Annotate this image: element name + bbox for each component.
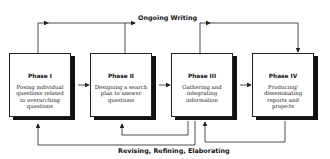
phase-2-description: Designing a search plan to answer questi… <box>94 84 148 103</box>
revising-loop <box>38 121 285 145</box>
phase-3-box: Phase III Gathering and integrating info… <box>171 53 233 117</box>
phase-2-title: Phase II <box>91 73 151 79</box>
phase-4-title: Phase IV <box>253 73 313 79</box>
phase-1-box: Phase I Posing individual questions rela… <box>9 53 71 117</box>
phase-3-title: Phase III <box>172 73 232 79</box>
phase-4-box: Phase IV Producing/ disseminating report… <box>252 53 314 117</box>
ongoing-writing-label: Ongoing Writing <box>138 14 197 22</box>
revising-label: Revising, Refining, Elaborating <box>118 147 230 155</box>
phase-1-description: Posing individual questions related to o… <box>13 84 67 110</box>
ongoing-writing-loop <box>38 23 298 53</box>
phase-2-box: Phase II Designing a search plan to answ… <box>90 53 152 117</box>
phase-3-description: Gathering and integrating information <box>175 84 229 103</box>
phase-1-title: Phase I <box>10 73 70 79</box>
phase-4-description: Producing/ disseminating reports and pro… <box>256 84 310 110</box>
